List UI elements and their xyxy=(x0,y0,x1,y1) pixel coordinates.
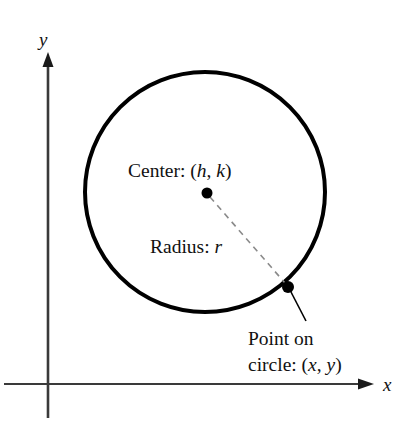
point-label-suffix: ) xyxy=(335,354,342,376)
center-label-suffix: ) xyxy=(225,160,232,182)
canvas-background xyxy=(0,0,405,431)
circle-diagram: y x Center: (h, k) Radius: r Point on ci… xyxy=(0,0,405,431)
point-label-separator: , xyxy=(317,354,327,375)
center-label-prefix: Center: ( xyxy=(128,160,197,182)
point-label-var-x: x xyxy=(307,354,317,375)
point-label-var-y: y xyxy=(325,354,336,375)
center-label: Center: (h, k) xyxy=(128,160,231,182)
x-axis-label: x xyxy=(382,374,392,395)
radius-label: Radius: r xyxy=(150,236,222,257)
radius-label-prefix: Radius: xyxy=(150,236,214,257)
point-label-line1: Point on xyxy=(248,328,314,349)
point-label-prefix: circle: ( xyxy=(248,354,308,376)
point-label-line2: circle: (x, y) xyxy=(248,354,342,376)
diagram-canvas: y x Center: (h, k) Radius: r Point on ci… xyxy=(0,0,405,431)
point-on-circle-marker xyxy=(282,281,294,293)
center-point-marker xyxy=(202,188,213,199)
center-label-separator: , xyxy=(207,160,217,181)
radius-label-var-r: r xyxy=(214,236,222,257)
center-label-var-k: k xyxy=(216,160,225,181)
y-axis-label: y xyxy=(37,29,48,50)
center-label-var-h: h xyxy=(197,160,207,181)
